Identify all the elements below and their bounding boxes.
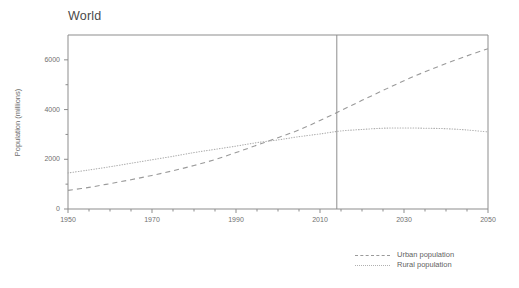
legend-item[interactable]: Urban population: [355, 250, 454, 260]
series-line-2: [68, 128, 488, 173]
y-tick-label: 0: [20, 205, 60, 212]
chart-figure: World Population (millions) 020004000600…: [0, 0, 519, 288]
legend-line-swatch: [355, 265, 390, 266]
x-tick-label: 1970: [132, 216, 172, 223]
legend-line-swatch: [355, 255, 390, 256]
data-series: [68, 49, 488, 191]
chart-legend: Urban populationRural population: [355, 250, 454, 270]
series-line-1: [68, 49, 488, 191]
legend-item-label: Urban population: [397, 250, 454, 260]
x-tick-label: 2010: [300, 216, 340, 223]
x-tick-label: 1950: [48, 216, 88, 223]
y-tick-label: 2000: [20, 155, 60, 162]
x-tick-label: 2050: [468, 216, 508, 223]
y-tick-label: 6000: [20, 56, 60, 63]
x-tick-label: 2030: [384, 216, 424, 223]
legend-item[interactable]: Rural population: [355, 260, 454, 270]
x-tick-label: 1990: [216, 216, 256, 223]
axes: [64, 35, 488, 213]
legend-item-label: Rural population: [397, 260, 452, 270]
y-tick-label: 4000: [20, 106, 60, 113]
plot-canvas: [0, 0, 519, 288]
